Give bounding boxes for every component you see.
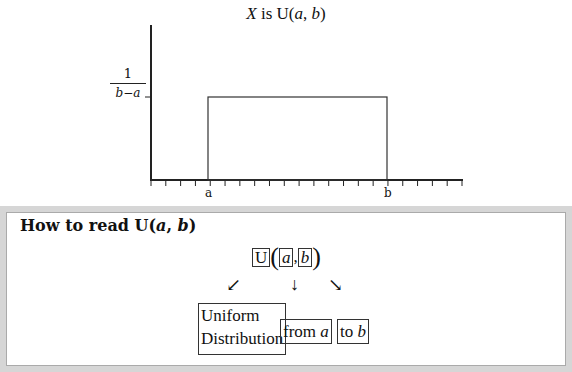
symbol-U-box: U: [252, 248, 270, 267]
chart-title: X is U(a, b): [0, 4, 572, 24]
density-height-label: 1 b−a: [108, 66, 148, 101]
arrow-down-icon: ↓: [290, 274, 299, 295]
notation-expression: U ( a , b ): [252, 244, 321, 270]
symbol-b-box: b: [298, 248, 313, 267]
to-b-box: to b: [337, 319, 369, 344]
how-to-read-panel: How to read U(a, b) U ( a , b ) ↙ ↓ ↘ Un…: [0, 206, 572, 372]
x-tick-label-b: b: [384, 186, 392, 200]
from-a-box: from a: [280, 319, 332, 344]
density-rectangle: [208, 97, 387, 180]
panel-heading: How to read U(a, b): [20, 216, 196, 235]
close-paren: ): [312, 244, 321, 270]
open-paren: (: [270, 244, 279, 270]
uniform-density-plot: [0, 0, 572, 206]
uniform-distribution-box: Uniform Distribution: [198, 303, 286, 355]
symbol-a-box: a: [279, 248, 294, 267]
arrow-down-right-icon: ↘: [328, 274, 343, 296]
arrow-down-left-icon: ↙: [226, 274, 241, 296]
x-tick-label-a: a: [205, 186, 212, 200]
